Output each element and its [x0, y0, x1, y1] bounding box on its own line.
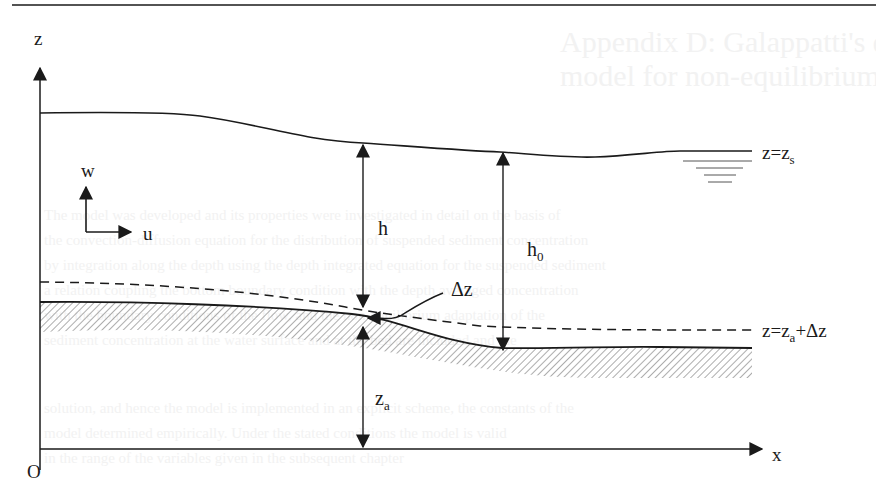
origin-label: O	[27, 461, 41, 482]
reference-equation-main: z=z	[762, 320, 790, 341]
surface-equation-sub: s	[790, 152, 795, 167]
surface-equation-label: z=zs	[762, 142, 795, 167]
za-label-main: z	[375, 387, 384, 409]
document-page: Appendix D: Galappatti's depth integrate…	[0, 0, 876, 496]
dz-label: Δz	[451, 278, 473, 300]
za-label-sub: a	[384, 398, 390, 413]
reference-equation-label: z=za+Δz	[762, 320, 827, 345]
water-surface-line	[40, 112, 752, 157]
h0-label-main: h	[527, 238, 537, 260]
x-axis-label: x	[772, 444, 782, 465]
h-label: h	[378, 217, 388, 239]
reference-equation-tail: +Δz	[795, 320, 826, 341]
flow-diagram: z x O w u h h0 Δz za z=zs z=za+Δz	[0, 0, 876, 496]
z-axis-label: z	[34, 28, 42, 49]
water-level-symbol-icon	[683, 161, 752, 182]
surface-equation-main: z=z	[762, 142, 790, 163]
dz-leader-arrow	[368, 293, 443, 319]
u-label: u	[143, 223, 153, 244]
h0-label-sub: 0	[537, 249, 544, 264]
sediment-bed-hatch	[40, 302, 752, 378]
w-label: w	[81, 160, 95, 181]
h0-label: h0	[527, 238, 544, 264]
za-label: za	[375, 387, 390, 413]
